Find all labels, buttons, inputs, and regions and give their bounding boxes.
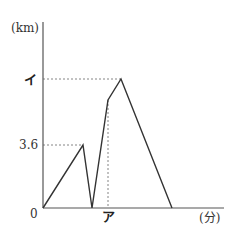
y-unit-label: (km) <box>11 21 39 35</box>
x-unknown-label: ア <box>102 209 115 224</box>
y-unknown-label: イ <box>24 72 37 87</box>
origin-label: 0 <box>30 207 38 221</box>
y-value-label: 3.6 <box>19 138 38 152</box>
distance-line <box>43 79 172 208</box>
distance-time-graph: (km) イ 3.6 0 ア (分) <box>0 0 238 242</box>
x-unit-label: (分) <box>199 211 220 225</box>
